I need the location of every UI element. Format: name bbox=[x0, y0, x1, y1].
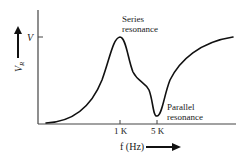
svg-text:f (Hz): f (Hz) bbox=[120, 141, 144, 153]
arrow-right-icon bbox=[172, 143, 181, 151]
y-tick-label: V bbox=[27, 32, 35, 43]
x-tick-label-1k: 1 K bbox=[114, 126, 128, 136]
resonance-diagram: V 1 K 5 K VR f (Hz) Series resonance Par… bbox=[0, 0, 248, 165]
y-axis-label: VR bbox=[13, 26, 26, 72]
x-axis-label: f (Hz) bbox=[120, 141, 181, 153]
response-curve bbox=[46, 37, 233, 123]
x-tick-label-5k: 5 K bbox=[151, 126, 165, 136]
parallel-resonance-label: Parallel resonance bbox=[167, 102, 203, 122]
arrow-up-icon bbox=[14, 26, 22, 34]
series-resonance-label: Series resonance bbox=[122, 14, 158, 34]
svg-text:VR: VR bbox=[13, 61, 26, 72]
